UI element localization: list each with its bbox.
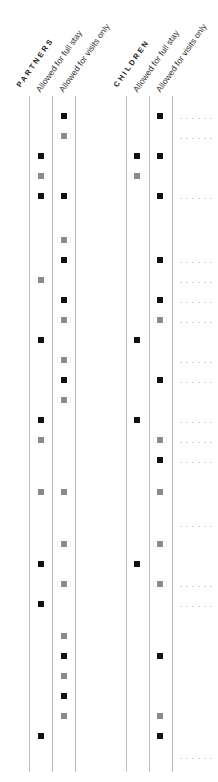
children-visits-only-marker: [157, 377, 163, 383]
dotted-leader: [178, 262, 216, 263]
partners-visits-only-marker: [61, 633, 67, 639]
children-visits-only-marker: [157, 193, 163, 199]
partners-visits-only-marker: [61, 133, 67, 139]
partners-visits-only-marker: [61, 297, 67, 303]
dotted-leader: [178, 362, 216, 363]
children-visits-only-marker: [157, 733, 163, 739]
children-visits-only-marker: [157, 489, 163, 495]
partners-visits-only-marker: [61, 317, 67, 323]
children-visits-only-marker: [157, 153, 163, 159]
dotted-leader: [178, 586, 216, 587]
children-visits-only-marker: [157, 297, 163, 303]
dotted-leader: [178, 198, 216, 199]
dotted-leader: [178, 758, 216, 759]
children-visits-only-marker: [157, 713, 163, 719]
children-visits-only-marker: [157, 317, 163, 323]
dotted-leader: [178, 462, 216, 463]
partners-full-stay-marker: [38, 489, 44, 495]
dotted-leader: [178, 118, 216, 119]
partners-visits-only-marker: [61, 489, 67, 495]
children-visits-only-marker: [157, 541, 163, 547]
dotted-leader: [178, 282, 216, 283]
children-full-stay-marker: [134, 173, 140, 179]
dotted-leader: [178, 422, 216, 423]
children-visits-only-marker: [157, 457, 163, 463]
partners-full-stay-marker: [38, 733, 44, 739]
partners-visits-only-marker: [61, 397, 67, 403]
partners-visits-only-marker: [61, 673, 67, 679]
children-divider-right: [172, 96, 173, 772]
partners-visits-only-marker: [61, 653, 67, 659]
dotted-leader: [178, 322, 216, 323]
children-full-stay-marker: [134, 337, 140, 343]
partners-full-stay-marker: [38, 417, 44, 423]
partners-divider-right: [75, 96, 76, 772]
children-divider-left: [126, 96, 127, 772]
partners-visits-only-marker: [61, 113, 67, 119]
dotted-leader: [178, 302, 216, 303]
partners-full-stay-marker: [38, 437, 44, 443]
dotted-leader: [178, 526, 216, 527]
partners-full-stay-marker: [38, 561, 44, 567]
partners-visits-only-marker: [61, 713, 67, 719]
dotted-leader: [178, 382, 216, 383]
partners-visits-only-marker: [61, 357, 67, 363]
partners-full-stay-marker: [38, 193, 44, 199]
partners-visits-only-marker: [61, 377, 67, 383]
partners-full-stay-marker: [38, 601, 44, 607]
partners-full-stay-marker: [38, 153, 44, 159]
partners-visits-only-marker: [61, 581, 67, 587]
partners-divider-mid: [52, 96, 53, 772]
children-full-stay-marker: [134, 561, 140, 567]
children-visits-only-marker: [157, 653, 163, 659]
dotted-leader: [178, 606, 216, 607]
partners-visits-only-marker: [61, 257, 67, 263]
partners-visits-only-marker: [61, 237, 67, 243]
dotted-leader: [178, 442, 216, 443]
partners-visits-only-marker: [61, 193, 67, 199]
children-visits-only-marker: [157, 257, 163, 263]
partners-visits-only-marker: [61, 541, 67, 547]
partners-full-stay-marker: [38, 173, 44, 179]
partners-full-stay-marker: [38, 277, 44, 283]
partners-full-stay-marker: [38, 337, 44, 343]
children-visits-only-marker: [157, 581, 163, 587]
children-divider-mid: [149, 96, 150, 772]
dotted-leader: [178, 138, 216, 139]
children-visits-only-marker: [157, 437, 163, 443]
children-full-stay-marker: [134, 417, 140, 423]
partners-visits-only-marker: [61, 693, 67, 699]
partners-divider-left: [29, 96, 30, 772]
children-visits-only-marker: [157, 113, 163, 119]
children-full-stay-marker: [134, 153, 140, 159]
